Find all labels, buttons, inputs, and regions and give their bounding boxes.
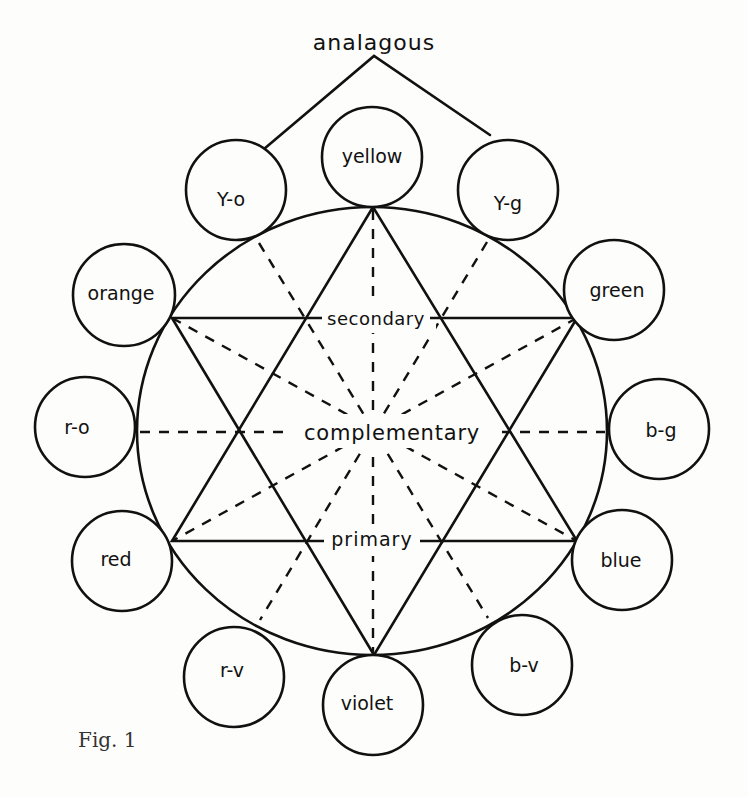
complementary-label: complementary: [304, 421, 480, 445]
label-orange: orange: [88, 282, 155, 304]
primary-triangle: [172, 207, 577, 541]
secondary-label: secondary: [327, 308, 425, 329]
label-green: green: [590, 279, 645, 301]
label-r-o: r-o: [64, 416, 89, 438]
figure-caption: Fig. 1: [78, 728, 137, 752]
label-r-v: r-v: [220, 659, 244, 681]
primary-label: primary: [331, 528, 412, 550]
label-y-g: Y-g: [493, 192, 522, 214]
label-y-o: Y-o: [216, 188, 245, 210]
label-red: red: [100, 548, 131, 570]
label-blue: blue: [600, 549, 641, 571]
label-yellow: yellow: [342, 145, 403, 167]
node-y-g: [458, 140, 558, 240]
color-wheel-diagram: analagous secondary complementary primar…: [0, 0, 748, 797]
label-violet: violet: [341, 692, 394, 714]
analogous-label: analagous: [313, 30, 435, 55]
secondary-triangle: [172, 318, 577, 655]
label-b-v: b-v: [509, 654, 539, 676]
label-b-g: b-g: [646, 419, 677, 441]
